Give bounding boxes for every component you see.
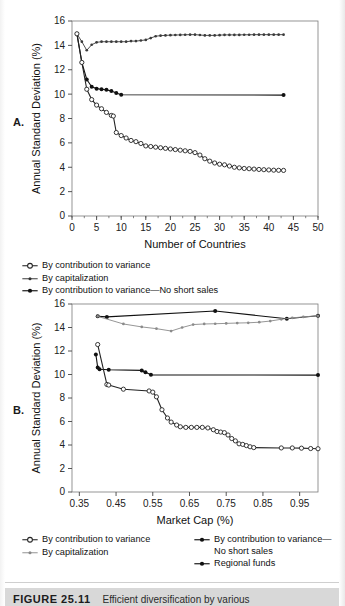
legend-item-contribution-variance: By contribution to variance bbox=[22, 260, 345, 272]
svg-text:15: 15 bbox=[140, 222, 152, 233]
svg-text:45: 45 bbox=[288, 222, 300, 233]
legend-label: By contribution to variance bbox=[42, 260, 150, 272]
legend-item-regional-funds: Regional funds bbox=[194, 558, 342, 570]
small-dot-line-icon bbox=[22, 273, 38, 285]
filled-dot-line-icon bbox=[194, 534, 210, 546]
small-dot-line-icon bbox=[22, 547, 38, 559]
svg-text:4: 4 bbox=[59, 162, 65, 173]
svg-text:Market Cap (%): Market Cap (%) bbox=[156, 514, 233, 526]
svg-text:0: 0 bbox=[69, 222, 75, 233]
svg-text:0: 0 bbox=[59, 210, 65, 221]
svg-text:Annual Standard Deviation (%): Annual Standard Deviation (%) bbox=[30, 322, 42, 473]
svg-text:5: 5 bbox=[94, 222, 100, 233]
chart-a: 024681012141605101520253035404550Number … bbox=[0, 4, 345, 254]
svg-text:20: 20 bbox=[165, 222, 177, 233]
legend-b: By contribution to variance By capitaliz… bbox=[0, 534, 345, 571]
svg-text:0.65: 0.65 bbox=[180, 498, 200, 509]
svg-text:2: 2 bbox=[59, 186, 65, 197]
svg-text:0.95: 0.95 bbox=[290, 498, 310, 509]
caption-divider bbox=[5, 582, 339, 583]
chart-b: 02468101214160.350.450.550.650.750.850.9… bbox=[0, 292, 345, 532]
svg-text:16: 16 bbox=[54, 298, 66, 309]
svg-text:40: 40 bbox=[263, 222, 275, 233]
legend-item-capitalization: By capitalization bbox=[22, 547, 194, 559]
svg-text:0.35: 0.35 bbox=[70, 498, 90, 509]
legend-label: By contribution to variance—No short sal… bbox=[214, 534, 332, 557]
svg-text:Annual Standard Deviation (%): Annual Standard Deviation (%) bbox=[30, 43, 42, 194]
legend-label: By contribution to variance bbox=[42, 534, 150, 546]
svg-text:0: 0 bbox=[59, 486, 65, 497]
svg-text:10: 10 bbox=[116, 222, 128, 233]
svg-text:14: 14 bbox=[54, 40, 66, 51]
figure-caption-bar: FIGURE 25.11 Efficient diversification b… bbox=[5, 588, 339, 606]
svg-text:10: 10 bbox=[54, 89, 66, 100]
svg-text:35: 35 bbox=[239, 222, 251, 233]
figure-number: FIGURE 25.11 bbox=[13, 593, 91, 605]
svg-text:6: 6 bbox=[59, 416, 65, 427]
svg-text:4: 4 bbox=[59, 439, 65, 450]
legend-label: Regional funds bbox=[214, 558, 275, 570]
open-circle-line-icon bbox=[22, 260, 38, 272]
svg-text:Number of Countries: Number of Countries bbox=[144, 238, 246, 250]
svg-text:8: 8 bbox=[59, 113, 65, 124]
svg-text:30: 30 bbox=[214, 222, 226, 233]
svg-text:12: 12 bbox=[54, 64, 66, 75]
svg-text:6: 6 bbox=[59, 137, 65, 148]
legend-item-contribution-variance: By contribution to variance bbox=[22, 534, 194, 546]
svg-text:0.85: 0.85 bbox=[253, 498, 273, 509]
svg-text:0.55: 0.55 bbox=[143, 498, 163, 509]
svg-text:2: 2 bbox=[59, 463, 65, 474]
panel-a: A. 024681012141605101520253035404550Numb… bbox=[0, 4, 345, 286]
legend-label: By capitalization bbox=[42, 273, 108, 285]
legend-item-no-short-sales: By contribution to variance—No short sal… bbox=[194, 534, 342, 557]
legend-item-capitalization: By capitalization bbox=[22, 273, 345, 285]
svg-text:12: 12 bbox=[54, 345, 66, 356]
legend-label: By capitalization bbox=[42, 547, 108, 559]
open-circle-line-icon bbox=[22, 534, 38, 546]
panel-b: B. 02468101214160.350.450.550.650.750.85… bbox=[0, 292, 345, 582]
svg-text:25: 25 bbox=[189, 222, 201, 233]
svg-text:16: 16 bbox=[54, 15, 66, 26]
figure-caption-text: Efficient diversification by various bbox=[102, 594, 249, 605]
svg-text:10: 10 bbox=[54, 369, 66, 380]
svg-text:0.75: 0.75 bbox=[216, 498, 236, 509]
svg-text:8: 8 bbox=[59, 392, 65, 403]
svg-text:50: 50 bbox=[312, 222, 324, 233]
filled-dot-line-icon bbox=[194, 558, 210, 570]
svg-text:0.45: 0.45 bbox=[106, 498, 126, 509]
svg-text:14: 14 bbox=[54, 322, 66, 333]
figure-page: A. 024681012141605101520253035404550Numb… bbox=[0, 0, 345, 606]
